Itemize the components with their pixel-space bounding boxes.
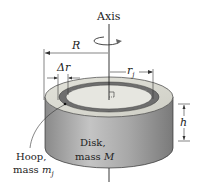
hoop-mass-var: m bbox=[42, 164, 51, 175]
axis-label: Axis bbox=[97, 11, 120, 22]
disk-label-line2: mass M bbox=[75, 152, 114, 162]
R-label: R bbox=[72, 40, 80, 51]
r-j-sub: j bbox=[132, 71, 134, 79]
disk-label-line1: Disk, bbox=[80, 138, 106, 148]
hoop-mass-sub: j bbox=[51, 170, 53, 178]
h-label: h bbox=[180, 117, 187, 128]
disk-hoop-diagram: Axis R Δr rj h Disk, mass M Hoop, mass m… bbox=[0, 0, 203, 195]
disk-mass-prefix: mass bbox=[75, 151, 104, 162]
hoop-mass-prefix: mass bbox=[13, 164, 42, 175]
delta-r-text: Δr bbox=[57, 61, 70, 74]
r-j-label: rj bbox=[127, 65, 134, 79]
rotation-arrow-icon bbox=[94, 37, 122, 45]
hoop-label-line2: mass mj bbox=[13, 165, 54, 178]
hoop-label-line1: Hoop, bbox=[16, 152, 46, 162]
hoop-marker-dot bbox=[64, 103, 67, 106]
delta-r-label: Δr bbox=[57, 62, 70, 73]
disk-mass-var: M bbox=[104, 151, 114, 162]
